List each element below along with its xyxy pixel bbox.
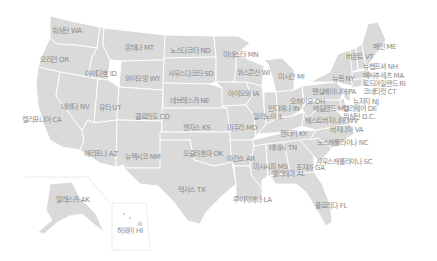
state-label-ma: 매사추세츠 MA xyxy=(363,72,404,80)
state-label-mi: 미시간 MI xyxy=(278,73,305,81)
state-label-ak: 알래스카 AK xyxy=(56,196,90,204)
state-label-co: 콜로라도 CO xyxy=(135,113,170,121)
state-label-in: 인디애나 IN xyxy=(268,105,299,113)
state-label-nj: 뉴저지 NJ xyxy=(353,98,379,106)
state-label-ks: 캔자스 KS xyxy=(183,124,210,132)
state-label-fl: 플로리다 FL xyxy=(315,202,347,210)
state-label-wy: 와이오밍 WY xyxy=(125,75,160,83)
state-label-dc: 워싱턴 D.C. xyxy=(343,113,376,121)
state-label-ri: 로드아일랜드 RI xyxy=(363,80,405,88)
state-label-de: 델라웨어 DE xyxy=(343,105,377,113)
state-label-la: 루이지애나 LA xyxy=(233,196,272,204)
state-label-mo: 미주리 MO xyxy=(227,124,257,132)
state-label-ut: 유타 UT xyxy=(99,104,121,112)
state-label-pa: 펜실베이니아 PA xyxy=(312,88,356,96)
state-AK[interactable] xyxy=(38,182,104,234)
state-HI-island[interactable] xyxy=(129,217,131,219)
state-label-ia: 아이오와 IA xyxy=(228,90,259,98)
state-label-ca: 캘리포니아 CA xyxy=(22,116,62,124)
state-label-ok: 오클라호마 OK xyxy=(183,150,223,158)
state-label-wa: 워싱턴 WA xyxy=(52,27,82,35)
state-label-nv: 네바다 NV xyxy=(61,103,89,111)
state-label-wi: 위스콘신 WI xyxy=(237,69,270,77)
state-label-tx: 텍사스 TX xyxy=(178,186,206,194)
state-label-nh: 뉴햄프셔 NH xyxy=(363,63,398,71)
state-label-va: 버지니아 VA xyxy=(330,126,363,134)
state-FL[interactable] xyxy=(270,172,332,226)
state-label-or: 오리건 OR xyxy=(40,56,69,64)
state-label-id: 아이다호 ID xyxy=(85,70,117,78)
state-label-sd: 사우스다코타 SD xyxy=(168,70,213,78)
state-AZ[interactable] xyxy=(80,120,117,167)
state-label-ct: 코네티컷 CT xyxy=(363,88,396,96)
state-label-mt: 몬태나 MT xyxy=(125,44,154,52)
state-HI-island[interactable] xyxy=(138,222,143,227)
state-label-nd: 노스다코타 ND xyxy=(170,47,210,55)
state-label-ny: 뉴욕 NY xyxy=(332,75,354,83)
state-label-il: 일리노이 IL xyxy=(253,113,283,121)
state-HI-island[interactable] xyxy=(123,213,125,215)
state-label-hi: 하와이 HI xyxy=(117,227,143,235)
state-UT[interactable] xyxy=(94,79,119,123)
state-label-vt: 버몬트 VT xyxy=(346,53,374,61)
state-label-mn: 미네소타 MN xyxy=(223,51,258,59)
state-label-tn: 테네시 TN xyxy=(269,144,297,152)
state-label-nm: 뉴멕시코 NM xyxy=(125,153,160,161)
state-label-ne: 네브래스카 NE xyxy=(170,97,209,105)
state-label-sc: 사우스캐롤라이나 SC xyxy=(316,158,372,166)
state-label-az: 애리조나 AZ xyxy=(84,150,118,158)
us-map xyxy=(0,0,437,261)
state-label-ar: 아칸소 AR xyxy=(227,155,255,163)
state-label-ky: 켄터키 KY xyxy=(280,130,307,138)
state-label-nc: 노스캐롤라이나 NC xyxy=(317,139,368,147)
state-label-me: 메인 ME xyxy=(373,43,396,51)
